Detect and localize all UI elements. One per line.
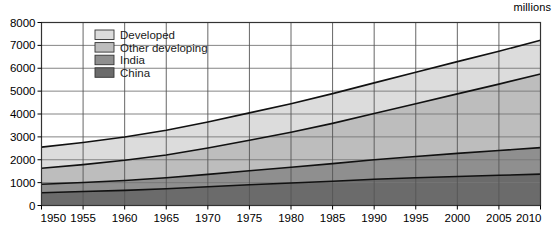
y-tick-label: 2000 xyxy=(10,154,36,166)
y-tick-label: 4000 xyxy=(10,108,36,120)
y-axis: 010002000300040005000600070008000 xyxy=(10,17,42,212)
x-axis: 1950195519601965197019751980198519901995… xyxy=(41,206,542,224)
y-tick-label: 8000 xyxy=(10,17,36,29)
y-tick-label: 5000 xyxy=(10,85,36,97)
x-tick-label: 2000 xyxy=(445,212,471,224)
y-tick-label: 0 xyxy=(29,200,35,212)
y-tick-label: 6000 xyxy=(10,62,36,74)
legend-item: India xyxy=(95,54,146,66)
legend-swatch xyxy=(95,30,114,40)
legend-swatch xyxy=(95,68,114,78)
population-stacked-area-chart: millions 0100020003000400050006000700080… xyxy=(0,0,555,240)
y-tick-label: 1000 xyxy=(10,177,36,189)
x-tick-label: 1955 xyxy=(70,212,96,224)
legend-item: Developed xyxy=(95,29,175,41)
x-tick-label: 1985 xyxy=(320,212,346,224)
x-tick-label: 1965 xyxy=(153,212,179,224)
legend-item: China xyxy=(95,67,151,79)
legend: DevelopedOther developingIndiaChina xyxy=(95,29,208,79)
legend-label: Other developing xyxy=(120,42,208,54)
legend-swatch xyxy=(95,43,114,53)
legend-swatch xyxy=(95,55,114,64)
x-tick-label: 1995 xyxy=(403,212,429,224)
legend-label: Developed xyxy=(120,29,175,41)
chart-canvas: 0100020003000400050006000700080001950195… xyxy=(0,0,555,240)
y-tick-label: 3000 xyxy=(10,131,36,143)
x-tick-label: 1975 xyxy=(237,212,263,224)
x-tick-label: 1990 xyxy=(361,212,387,224)
x-tick-label: 2010 xyxy=(516,212,542,224)
x-tick-label: 1980 xyxy=(278,212,304,224)
x-tick-label: 2005 xyxy=(486,212,512,224)
legend-label: China xyxy=(120,67,151,79)
x-tick-label: 1960 xyxy=(112,212,138,224)
legend-label: India xyxy=(120,54,146,66)
x-tick-label: 1970 xyxy=(195,212,221,224)
legend-item: Other developing xyxy=(95,42,208,54)
y-tick-label: 7000 xyxy=(10,39,36,51)
unit-label: millions xyxy=(514,1,551,13)
x-tick-label: 1950 xyxy=(41,212,67,224)
